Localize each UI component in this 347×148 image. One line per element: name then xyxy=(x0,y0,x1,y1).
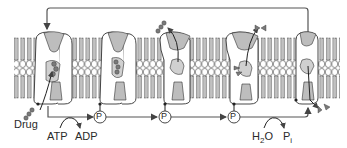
atp-label: ATP xyxy=(47,131,68,142)
pathway-arrow-4 xyxy=(240,108,308,117)
dephosphorylation-arrow xyxy=(264,118,284,128)
transporter-state-3 xyxy=(160,28,190,111)
phosphate-label-3: P xyxy=(230,112,236,121)
substrate-cytoplasm xyxy=(318,104,330,113)
adp-label: ADP xyxy=(75,131,98,142)
drug-molecules-released xyxy=(156,21,166,33)
pathway-arrow-1 xyxy=(48,106,93,117)
transporter-state-4 xyxy=(226,28,258,111)
substrate-released xyxy=(255,25,266,31)
phosphate-label-1: P xyxy=(96,112,102,121)
transport-cycle-diagram xyxy=(0,0,347,148)
transporter-state-2 xyxy=(98,32,136,111)
phosphate-label-2: P xyxy=(161,112,167,121)
inorganic-phosphate-label: Pi xyxy=(283,131,292,145)
cycle-return-arrow xyxy=(47,8,308,34)
drug-label: Drug xyxy=(14,119,38,130)
transporter-state-5 xyxy=(294,32,318,108)
water-label: H2O xyxy=(252,131,273,145)
atp-hydrolysis-arrow xyxy=(60,118,80,128)
transporter-state-1 xyxy=(34,32,72,110)
